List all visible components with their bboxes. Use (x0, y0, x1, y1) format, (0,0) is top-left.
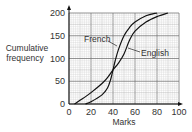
y-axis-label-line2: frequency (6, 53, 44, 63)
grid (69, 13, 179, 104)
english-pointer (128, 48, 140, 52)
y-tick-200: 200 (50, 8, 65, 18)
y-axis-arrow-icon (67, 5, 71, 10)
x-tick-100: 100 (171, 107, 186, 117)
y-tick-50: 50 (55, 76, 65, 86)
x-axis-arrow-icon (178, 102, 183, 106)
french-label: French (84, 34, 111, 44)
y-axis-label-line1: Cumulative (6, 43, 49, 53)
cumulative-frequency-chart: 0 20 40 60 80 100 0 50 100 150 200 Marks… (0, 0, 192, 132)
y-tick-100: 100 (50, 54, 65, 64)
x-tick-40: 40 (108, 107, 118, 117)
y-tick-0: 0 (60, 99, 65, 109)
english-label: English (141, 48, 169, 58)
x-tick-60: 60 (130, 107, 140, 117)
x-tick-80: 80 (152, 107, 162, 117)
y-tick-150: 150 (50, 31, 65, 41)
x-tick-0: 0 (66, 107, 71, 117)
x-tick-20: 20 (86, 107, 96, 117)
x-axis-label: Marks (112, 117, 135, 127)
